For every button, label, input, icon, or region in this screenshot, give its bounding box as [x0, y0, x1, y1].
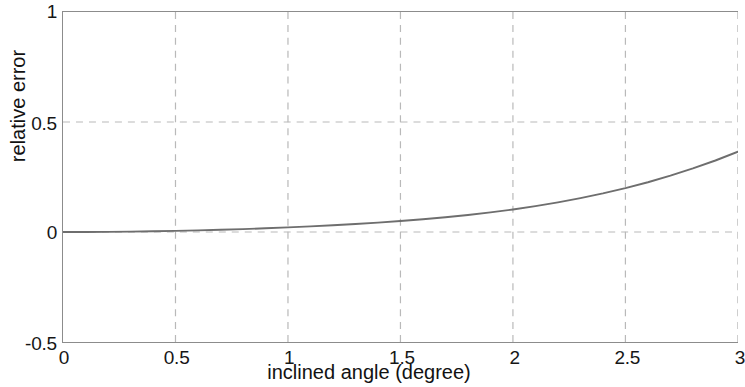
plot-area [62, 11, 738, 343]
y-tick-label: 1 [47, 2, 57, 21]
y-tick-label: 0.5 [31, 113, 57, 132]
plot-canvas [63, 12, 738, 342]
gridlines [63, 12, 738, 342]
x-axis-title: inclined angle (degree) [0, 362, 738, 382]
y-axis-title: relative error [8, 6, 28, 206]
y-tick-label: 0 [47, 223, 57, 242]
